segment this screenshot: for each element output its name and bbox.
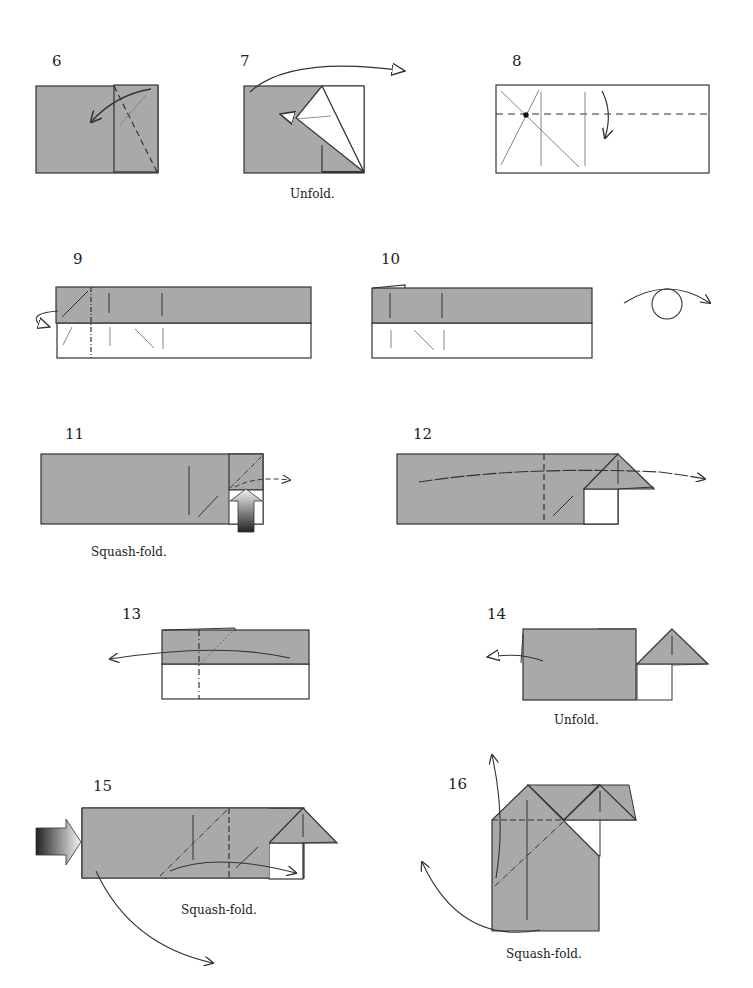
push-arrow-icon: [36, 819, 81, 865]
step-6-diagram: [36, 85, 158, 173]
step-7-diagram: [244, 66, 405, 173]
step-12-diagram: [397, 454, 705, 524]
step-10-diagram: [372, 285, 592, 358]
turn-over-icon: [624, 289, 710, 319]
step-15-diagram: [36, 808, 337, 963]
step-14-diagram: [487, 629, 708, 700]
step-11-diagram: [41, 454, 290, 532]
step-13-diagram: [110, 628, 309, 699]
step-9-diagram: [36, 287, 311, 358]
origami-diagram-sheet: 6 7 8 9 10 11 12 13 14 15 16 Unfold. Squ…: [0, 0, 753, 988]
step-8-diagram: [496, 85, 709, 173]
step-16-diagram: [422, 755, 636, 932]
diagram-drawings: [0, 0, 753, 988]
